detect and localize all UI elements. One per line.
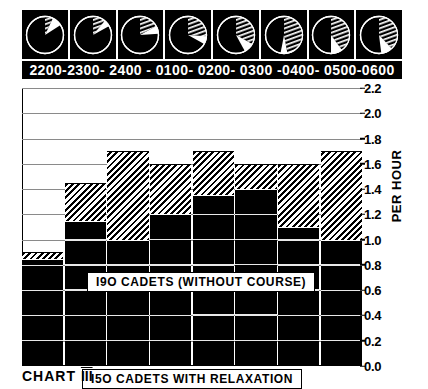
bar-interior-rule [150, 315, 191, 316]
bar-interior-rule [22, 315, 63, 316]
bar-column[interactable] [65, 88, 106, 366]
y-tick-mark [360, 138, 365, 140]
bar-interior-rule [321, 340, 362, 341]
y-tick-label: 0.4 [364, 309, 398, 322]
y-tick-mark [360, 188, 365, 190]
legend-label-with-relaxation: I5O CADETS WITH RELAXATION [82, 369, 302, 389]
bar-interior-rule [65, 239, 106, 240]
bar-column[interactable] [193, 88, 234, 366]
y-tick-mark [360, 163, 365, 165]
bar-segment-without-course [278, 164, 319, 227]
bar-interior-rule [22, 265, 63, 266]
bar-interior-rule [107, 340, 148, 341]
y-tick-label: 2.0 [364, 107, 398, 120]
bar-interior-rule [193, 340, 234, 341]
bar-interior-rule [65, 315, 106, 316]
y-tick-label: 2.2 [364, 82, 398, 95]
y-tick-label: 0.8 [364, 258, 398, 271]
pie-chart-icon [309, 10, 355, 59]
y-tick-mark [360, 289, 365, 291]
y-tick-label: 1.0 [364, 233, 398, 246]
bar-interior-rule [107, 264, 148, 265]
bar-interior-rule [235, 239, 276, 240]
bar-interior-rule [150, 340, 191, 341]
bar-column[interactable] [22, 88, 63, 366]
bar-interior-rule [193, 239, 234, 240]
time-axis-band: 2200-2300- 2400 - 0100- 0200- 0300 -0400… [22, 61, 402, 79]
bar-interior-rule [278, 239, 319, 240]
pie-chart-icon [213, 10, 259, 59]
bar-column[interactable] [150, 88, 191, 366]
bar-segment-with-relaxation [65, 221, 106, 366]
bar-interior-rule [278, 315, 319, 316]
pie-icon-strip [22, 10, 402, 59]
bar-group [22, 88, 362, 366]
y-tick-label: 0.0 [364, 360, 398, 373]
plot-area: I9O CADETS (WITHOUT COURSE) I5O CADETS W… [22, 88, 362, 366]
y-tick-mark [360, 365, 365, 367]
y-tick-mark [360, 113, 365, 115]
bar-column[interactable] [107, 88, 148, 366]
bar-segment-without-course [107, 151, 148, 239]
chart-caption: CHART III [22, 368, 93, 384]
bar-interior-rule [321, 290, 362, 291]
bar-interior-rule [235, 340, 276, 341]
bar-interior-rule [278, 340, 319, 341]
bar-segment-without-course [150, 164, 191, 215]
bar-interior-rule [235, 264, 276, 265]
y-tick-mark [360, 340, 365, 342]
bar-interior-rule [107, 315, 148, 316]
pie-chart-icon [22, 10, 68, 59]
bar-interior-rule [321, 315, 362, 316]
y-axis-title: PER HOUR [389, 150, 404, 223]
bar-interior-rule [65, 264, 106, 265]
pie-chart-icon [356, 10, 402, 59]
y-tick-label: 0.6 [364, 284, 398, 297]
y-tick-mark [360, 214, 365, 216]
y-tick-mark [360, 239, 365, 241]
bar-interior-rule [22, 290, 63, 291]
bar-segment-without-course [193, 151, 234, 195]
y-tick-label: 1.8 [364, 132, 398, 145]
bar-interior-rule [150, 239, 191, 240]
legend-label-without-course: I9O CADETS (WITHOUT COURSE) [87, 272, 315, 292]
bar-segment-with-relaxation [321, 240, 362, 366]
bar-column[interactable] [278, 88, 319, 366]
bar-segment-with-relaxation [22, 259, 63, 366]
caption-word: CHART [22, 368, 76, 384]
bar-interior-rule [150, 264, 191, 265]
caption-numeral: III [81, 368, 93, 384]
bar-interior-rule [321, 264, 362, 265]
bar-interior-rule [193, 264, 234, 265]
bar-column[interactable] [235, 88, 276, 366]
pie-chart-icon [70, 10, 116, 59]
bar-interior-rule [65, 340, 106, 341]
bar-interior-rule [278, 264, 319, 265]
y-tick-mark [360, 315, 365, 317]
bar-interior-rule [193, 214, 234, 215]
bar-segment-without-course [65, 183, 106, 221]
bar-segment-without-course [235, 164, 276, 189]
bar-column[interactable] [321, 88, 362, 366]
y-axis: 2.22.01.81.61.41.21.00.80.60.40.20.0 [364, 88, 398, 366]
y-tick-mark [360, 264, 365, 266]
bar-interior-rule [235, 214, 276, 215]
bar-segment-with-relaxation [107, 240, 148, 366]
y-tick-label: 0.2 [364, 334, 398, 347]
pie-chart-icon [118, 10, 164, 59]
bar-segment-with-relaxation [278, 227, 319, 366]
bar-segment-without-course [321, 151, 362, 239]
bar-interior-rule [193, 314, 234, 315]
bar-interior-rule [22, 340, 63, 341]
pie-chart-icon [261, 10, 307, 59]
pie-chart-icon [165, 10, 211, 59]
bar-interior-rule [235, 314, 276, 315]
y-tick-mark [360, 87, 365, 89]
